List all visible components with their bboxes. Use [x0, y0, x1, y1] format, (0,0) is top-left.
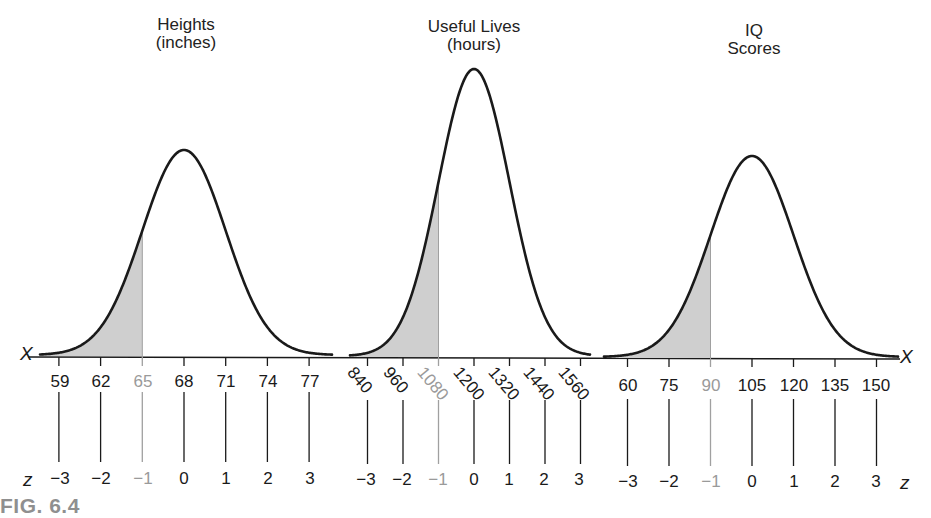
z-tick-label: 2 [539, 470, 548, 490]
z-tick-label: 0 [469, 470, 478, 490]
shaded-area-2 [604, 236, 711, 358]
z-tick-label: 1 [789, 472, 798, 492]
x-tick-label: 74 [259, 372, 278, 392]
z-tick-label: −2 [659, 472, 678, 492]
x-tick-label: 135 [821, 376, 849, 396]
z-axis-symbol-right: z [900, 472, 910, 494]
z-tick-label: −2 [91, 469, 110, 489]
title-line-1: IQ [704, 22, 804, 40]
x-tick-label: 150 [862, 376, 890, 396]
normal-curve-0 [40, 150, 332, 355]
title-line-1: Useful Lives [404, 18, 544, 36]
title-line-2: (inches) [124, 34, 248, 52]
panel-title-iq-scores: IQ Scores [704, 22, 804, 58]
x-tick-label: 71 [217, 372, 236, 392]
x-tick-label: 77 [301, 372, 320, 392]
z-tick-label-highlighted: −1 [428, 470, 447, 490]
title-line-1: Heights [124, 16, 248, 34]
x-tick-label-highlighted: 90 [702, 376, 721, 396]
normal-curve-2 [604, 156, 898, 357]
title-line-2: Scores [704, 40, 804, 58]
panel-title-heights: Heights (inches) [124, 16, 248, 52]
z-tick-label: 3 [574, 470, 583, 490]
figure-label: FIG. 6.4 [0, 494, 80, 518]
panel-title-useful-lives: Useful Lives (hours) [404, 18, 544, 54]
x-tick-label-highlighted: 65 [134, 372, 153, 392]
z-tick-label: −2 [392, 470, 411, 490]
normal-distribution-figure: Heights (inches) Useful Lives (hours) IQ… [0, 0, 931, 518]
x-tick-label: 60 [619, 376, 638, 396]
z-tick-label-highlighted: −1 [701, 472, 720, 492]
x-axis-symbol-left: X [20, 343, 33, 365]
z-tick-label: 3 [305, 469, 314, 489]
z-axis-symbol-left: z [23, 469, 33, 491]
x-tick-label: 59 [51, 372, 70, 392]
z-tick-label: 1 [221, 469, 230, 489]
z-tick-label: 2 [263, 469, 272, 489]
x-axis-symbol-right: X [900, 346, 913, 368]
x-tick-label: 68 [175, 372, 194, 392]
z-tick-label: 2 [830, 472, 839, 492]
z-tick-label-highlighted: −1 [133, 469, 152, 489]
x-axis-line [28, 357, 900, 359]
z-tick-label: 0 [179, 469, 188, 489]
z-tick-label: 3 [871, 472, 880, 492]
x-tick-label: 75 [660, 376, 679, 396]
curves-plot [0, 0, 931, 518]
z-tick-label: −3 [356, 470, 375, 490]
z-tick-label: −3 [50, 469, 69, 489]
z-tick-label: 1 [504, 470, 513, 490]
x-tick-label: 62 [92, 372, 111, 392]
z-tick-label: −3 [618, 472, 637, 492]
x-tick-label: 120 [780, 376, 808, 396]
z-tick-label: 0 [747, 472, 756, 492]
x-tick-label: 105 [738, 376, 766, 396]
title-line-2: (hours) [404, 36, 544, 54]
normal-curve-1 [350, 69, 590, 355]
